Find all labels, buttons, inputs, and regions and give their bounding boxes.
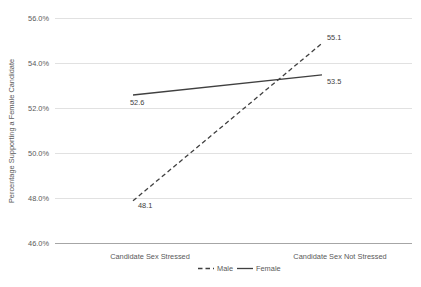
series-female-line <box>133 75 322 95</box>
y-tick-label-46: 46.0% <box>28 239 49 248</box>
y-tick-label-52: 52.0% <box>28 104 49 113</box>
series-male: 48.1 55.1 <box>133 33 341 210</box>
series-male-line <box>133 43 322 201</box>
legend-label-male[interactable]: Male <box>217 264 233 273</box>
y-axis-title: Percentage Supporting a Female Candidate <box>7 59 16 203</box>
line-chart: 56.0% 54.0% 52.0% 50.0% 48.0% 46.0% Perc… <box>0 0 421 287</box>
y-tick-label-50: 50.0% <box>28 149 49 158</box>
legend-label-female[interactable]: Female <box>256 264 281 273</box>
x-category-label-1: Candidate Sex Not Stressed <box>293 252 386 261</box>
y-tick-label-56: 56.0% <box>28 14 49 23</box>
x-category-label-0: Candidate Sex Stressed <box>110 252 190 261</box>
y-axis-tick-labels: 56.0% 54.0% 52.0% 50.0% 48.0% 46.0% <box>28 14 49 248</box>
x-axis-category-labels: Candidate Sex Stressed Candidate Sex Not… <box>110 252 386 261</box>
series-female-label-left: 52.6 <box>130 98 144 107</box>
series-female: 52.6 53.5 <box>130 75 341 107</box>
series-male-label-left: 48.1 <box>138 201 152 210</box>
y-axis-title-text: Percentage Supporting a Female Candidate <box>7 59 16 203</box>
gridlines <box>55 19 412 244</box>
series-male-label-right: 55.1 <box>327 33 341 42</box>
chart-canvas: 56.0% 54.0% 52.0% 50.0% 48.0% 46.0% Perc… <box>0 0 421 287</box>
series-female-label-right: 53.5 <box>327 77 341 86</box>
y-tick-label-48: 48.0% <box>28 194 49 203</box>
chart-legend: Male Female <box>198 264 281 273</box>
y-tick-label-54: 54.0% <box>28 59 49 68</box>
